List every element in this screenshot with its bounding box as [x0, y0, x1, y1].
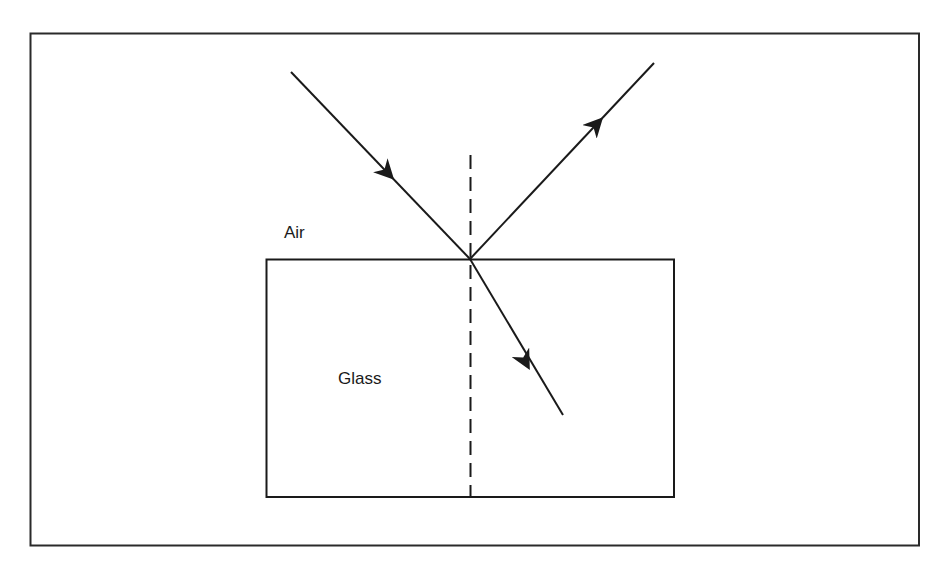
refracted-ray	[470, 259, 563, 415]
incident-ray	[291, 72, 470, 259]
diagram-canvas	[0, 0, 951, 582]
air-label: Air	[284, 224, 305, 241]
glass-label: Glass	[338, 370, 381, 387]
outer-frame	[31, 34, 920, 546]
reflected-ray	[470, 63, 654, 259]
